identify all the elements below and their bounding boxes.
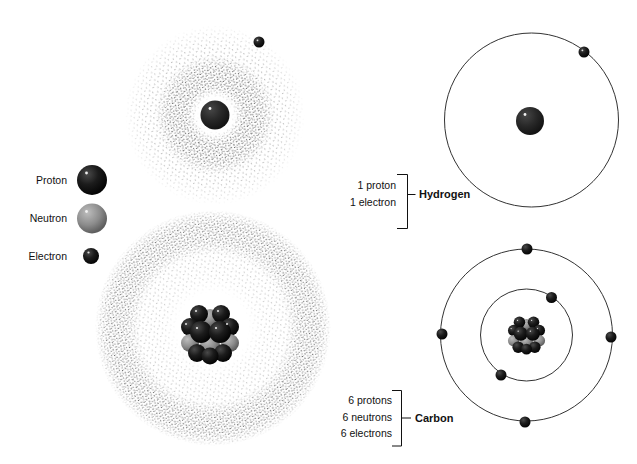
legend-neutron-label: Neutron: [0, 212, 67, 224]
carbon-shell-nucleus: [508, 316, 545, 354]
hydrogen-electrons-label: 1 electron: [336, 196, 396, 208]
hydrogen-electron: [254, 37, 265, 48]
legend-electron-label: Electron: [0, 250, 67, 262]
carbon-neutrons-label: 6 neutrons: [322, 411, 392, 423]
carbon-electron-outer-right: [606, 332, 617, 343]
legend-neutron-icon: [77, 204, 107, 234]
hydrogen-bracket: [397, 175, 416, 229]
atom-models-diagram: [0, 0, 637, 464]
hydrogen-shell-nucleus: [516, 107, 544, 135]
hydrogen-name-label: Hydrogen: [419, 188, 470, 200]
hydrogen-cloud-model: [125, 25, 305, 205]
carbon-cloud-model: [95, 210, 331, 446]
hydrogen-shell-electron: [579, 47, 590, 58]
hydrogen-shell-model: [445, 33, 619, 207]
carbon-electrons-label: 6 electrons: [322, 427, 392, 439]
hydrogen-nucleus-proton: [201, 101, 230, 130]
carbon-electron-outer-top: [522, 244, 533, 255]
carbon-electron-outer-left: [437, 329, 448, 340]
carbon-protons-label: 6 protons: [322, 394, 392, 406]
carbon-name-label: Carbon: [415, 412, 454, 424]
carbon-bracket: [392, 391, 411, 447]
legend-electron-icon: [83, 248, 99, 264]
legend-proton-icon: [77, 165, 107, 195]
carbon-shell-model: [437, 244, 617, 428]
carbon-electron-inner-lower: [496, 370, 507, 381]
carbon-electron-inner-upper: [546, 292, 557, 303]
legend-proton-label: Proton: [0, 174, 67, 186]
hydrogen-protons-label: 1 proton: [336, 179, 396, 191]
carbon-electron-outer-bottom: [520, 417, 531, 428]
